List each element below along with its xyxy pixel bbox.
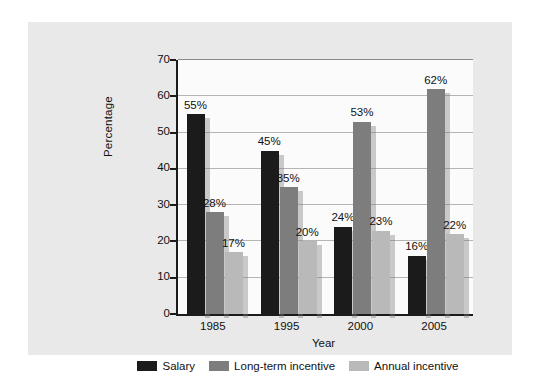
y-tick-label: 40: [157, 162, 170, 174]
legend-item: Long-term incentive: [209, 360, 335, 372]
y-tick-label: 30: [157, 199, 170, 211]
bar-body: [372, 231, 390, 314]
y-tick-label: 10: [157, 271, 170, 283]
y-tick-label: 20: [157, 235, 170, 247]
bar-value-label: 53%: [350, 107, 373, 119]
bar-value-label: 62%: [424, 75, 447, 87]
plot-area: 55%28%17%45%35%20%24%53%23%16%62%22%: [176, 60, 473, 316]
legend-item: Annual incentive: [349, 360, 458, 372]
x-tick-label: 1985: [183, 320, 243, 332]
bar-value-label: 17%: [222, 238, 245, 250]
gridline: [178, 59, 473, 60]
bar-value-label: 20%: [296, 227, 319, 239]
bar: [334, 227, 352, 314]
bar: [187, 114, 205, 314]
x-tick-label: 2000: [330, 320, 390, 332]
legend-label: Long-term incentive: [234, 360, 335, 372]
bar: [372, 231, 390, 314]
bar-value-label: 35%: [277, 173, 300, 185]
legend-label: Annual incentive: [374, 360, 458, 372]
bar-value-label: 22%: [443, 220, 466, 232]
y-axis-tick-labels: 010203040506070: [136, 60, 170, 314]
bar-body: [187, 114, 205, 314]
bar-body: [299, 241, 317, 314]
bar: [408, 256, 426, 314]
bar-value-label: 24%: [331, 212, 354, 224]
bar: [427, 89, 445, 314]
bar-body: [206, 212, 224, 314]
bar-value-label: 55%: [184, 100, 207, 112]
bar: [280, 187, 298, 314]
x-tick-label: 2005: [404, 320, 464, 332]
x-tick-label: 1995: [257, 320, 317, 332]
bar-value-label: 28%: [203, 198, 226, 210]
bar-shadow: [390, 235, 395, 318]
legend-swatch: [137, 361, 157, 371]
bar: [206, 212, 224, 314]
bar-value-label: 45%: [258, 136, 281, 148]
bar-body: [280, 187, 298, 314]
bar-value-label: 16%: [405, 241, 428, 253]
bar-value-label: 23%: [369, 216, 392, 228]
y-tick-label: 60: [157, 90, 170, 102]
legend-label: Salary: [162, 360, 195, 372]
bar-body: [334, 227, 352, 314]
bar-body: [446, 234, 464, 314]
bar-body: [225, 252, 243, 314]
chart-legend: SalaryLong-term incentiveAnnual incentiv…: [56, 360, 540, 372]
y-tick-label: 70: [157, 54, 170, 66]
x-axis-title: Year: [176, 337, 471, 349]
bar-shadow: [317, 245, 322, 318]
bar-body: [427, 89, 445, 314]
y-axis-title: Percentage: [102, 96, 114, 157]
y-tick-label: 50: [157, 126, 170, 138]
bar-body: [408, 256, 426, 314]
legend-item: Salary: [137, 360, 195, 372]
bar-shadow: [464, 238, 469, 318]
bar: [299, 241, 317, 314]
legend-swatch: [209, 361, 229, 371]
legend-swatch: [349, 361, 369, 371]
figure-panel: Percentage 010203040506070 55%28%17%45%3…: [28, 22, 512, 355]
bar: [446, 234, 464, 314]
bar-shadow: [243, 256, 248, 318]
bar: [225, 252, 243, 314]
